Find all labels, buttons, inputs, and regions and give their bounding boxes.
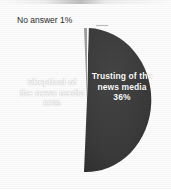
pie-label-no-answer: No answer 1%: [17, 15, 72, 26]
pie-label-trusting-line1: Trusting of the: [86, 71, 158, 82]
pie-chart-figure: No answer 1% Trusting of the news media …: [0, 0, 171, 189]
pie-label-trusting-percent: 36%: [86, 92, 158, 103]
pie-label-trusting-line2: news media: [86, 82, 158, 93]
pie-label-skeptical-line1: Skeptical of: [10, 77, 94, 88]
pie-label-skeptical-percent: 63%: [10, 98, 94, 109]
pie-label-skeptical-line2: the news media: [10, 88, 94, 99]
no-answer-leader-line: [96, 25, 108, 26]
pie-label-trusting: Trusting of the news media 36%: [86, 71, 158, 103]
scan-edge-artifact: [0, 0, 171, 4]
pie-label-skeptical: Skeptical of the news media 63%: [10, 77, 94, 109]
